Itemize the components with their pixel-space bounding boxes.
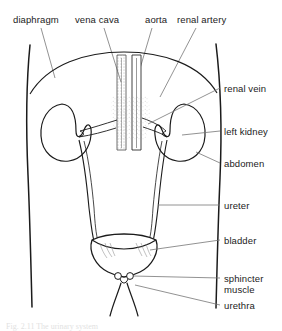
leader-renal-artery xyxy=(160,28,196,97)
sphincter-right-lobe xyxy=(127,273,134,280)
leader-abdomen xyxy=(196,152,220,163)
label-diaphragm: diaphragm xyxy=(13,14,59,25)
body-left-contour xyxy=(27,45,32,307)
label-urethra: urethra xyxy=(224,300,255,311)
bladder-outline xyxy=(91,234,157,277)
sphincter-neck xyxy=(120,279,128,283)
vessel-bundle-shade xyxy=(111,96,149,140)
body-right-contour xyxy=(216,44,221,308)
figure-caption: Fig. 2.11 The urinary system xyxy=(6,322,98,331)
great-vessels xyxy=(111,55,149,150)
urethra-tube xyxy=(110,283,138,316)
bladder-organ xyxy=(91,234,157,277)
label-abdomen: abdomen xyxy=(224,158,264,169)
leader-sphincter-muscle xyxy=(133,276,220,278)
ureters xyxy=(79,140,167,241)
label-vena-cava: vena cava xyxy=(75,14,119,25)
urethra-left-wall xyxy=(110,283,121,316)
label-renal-vein: renal vein xyxy=(224,83,266,94)
label-left-kidney: left kidney xyxy=(224,126,268,137)
kidney-left-outline xyxy=(41,104,91,161)
urethra-right-wall xyxy=(127,283,138,316)
label-sphincter-muscle: sphincter muscle xyxy=(224,273,263,295)
diagram-page: diaphragm vena cava aorta renal artery r… xyxy=(0,0,282,331)
leader-urethra xyxy=(135,285,220,305)
leader-bladder xyxy=(150,240,220,250)
label-aorta: aorta xyxy=(145,14,167,25)
kidney-left-organ xyxy=(41,104,91,161)
label-ureter: ureter xyxy=(224,200,249,211)
label-bladder: bladder xyxy=(224,235,256,246)
label-renal-artery: renal artery xyxy=(177,14,226,25)
sphincter-left-lobe xyxy=(115,273,122,280)
